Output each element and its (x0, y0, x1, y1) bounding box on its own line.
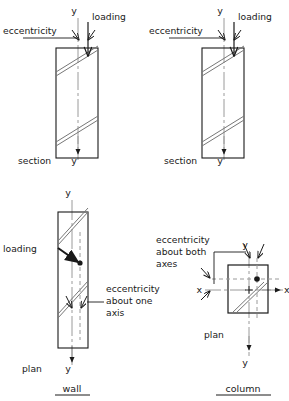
eccentricity-dim-arrows (72, 30, 95, 40)
view-name-plan: plan (22, 363, 42, 374)
member-outline (56, 48, 98, 158)
view-name-plan: plan (204, 329, 224, 340)
loading-label: loading (3, 243, 37, 254)
eccentricity-label-line1: eccentricity (106, 283, 160, 294)
load-point-marker (254, 276, 260, 282)
diagram-canvas: y y loading eccentricity section y (0, 0, 289, 401)
loading-label: loading (238, 11, 272, 22)
eccentricity-label-line2: about both (156, 246, 206, 257)
view-name-section: section (164, 155, 197, 166)
caption-wall: wall (63, 383, 82, 394)
section-hatch (56, 46, 98, 146)
load-point-marker (77, 260, 82, 265)
panel-wall-section: y y loading eccentricity section (3, 5, 126, 166)
axis-label-y-bottom: y (217, 155, 223, 166)
caption-column: column (226, 383, 261, 394)
wall-outline-plan (58, 212, 88, 348)
eccentricity-label-line2: about one (106, 295, 153, 306)
axis-label-x-right: x (284, 284, 289, 295)
engineering-diagram: y y loading eccentricity section y (0, 0, 289, 401)
view-name-section: section (18, 155, 51, 166)
axis-label-y-bottom: y (71, 155, 77, 166)
eccentricity-dim-arrows-x (201, 268, 210, 300)
axis-label-y-top: y (71, 5, 77, 16)
plan-hatch (58, 208, 88, 318)
column-outline-plan (228, 265, 268, 313)
loading-arrow (58, 248, 78, 262)
plan-hatch (232, 282, 268, 313)
eccentricity-label-line3: axes (156, 258, 177, 269)
centroid-cross-mark (245, 286, 253, 294)
axis-label-y-top: y (242, 239, 248, 250)
loading-label: loading (92, 11, 126, 22)
panel-column-plan: y y x x (156, 234, 289, 395)
member-outline (202, 48, 244, 158)
eccentricity-label: eccentricity (149, 25, 203, 36)
eccentricity-dim-arrows (218, 30, 241, 40)
axis-label-y-top: y (217, 5, 223, 16)
axis-label-y-top: y (65, 187, 71, 198)
panel-wall-plan: y y loading eccentricity about one axis (3, 187, 160, 395)
axis-label-y-bottom: y (242, 357, 248, 368)
axis-label-y-bottom: y (65, 363, 71, 374)
panel-column-section: y y loading eccentricity section (149, 5, 272, 166)
axis-label-x-left: x (196, 284, 202, 295)
eccentricity-label: eccentricity (3, 25, 57, 36)
eccentricity-label-line1: eccentricity (156, 234, 210, 245)
section-hatch (202, 46, 244, 146)
eccentricity-label-line3: axis (106, 307, 125, 318)
